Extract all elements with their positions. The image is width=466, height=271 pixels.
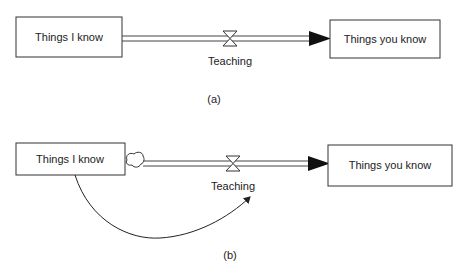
stock-label: Things you know — [349, 159, 432, 171]
stock-things-i-know-b: Things I know — [16, 143, 125, 175]
caption-b: (b) — [223, 249, 236, 261]
flow-label-teaching: Teaching — [208, 55, 252, 67]
diagram-a: Things I know Teaching Things you know (… — [16, 17, 440, 105]
diagram-b: Things I know Teaching Things you know (… — [16, 143, 452, 261]
flow-label-teaching: Teaching — [211, 180, 255, 192]
stock-things-you-know-b: Things you know — [328, 145, 452, 186]
stock-flow-diagrams: Things I know Teaching Things you know (… — [0, 0, 466, 271]
caption-a: (a) — [207, 93, 220, 105]
flow-arrowhead-icon — [308, 156, 330, 171]
stock-label: Things you know — [344, 33, 427, 45]
flow-arrowhead-icon — [309, 31, 331, 46]
flow-pipe-a — [122, 36, 312, 41]
stock-label: Things I know — [35, 31, 103, 43]
stock-label: Things I know — [36, 153, 104, 165]
valve-icon — [226, 156, 240, 171]
cloud-icon — [126, 152, 144, 167]
stock-things-i-know-a: Things I know — [16, 17, 122, 57]
stock-things-you-know-a: Things you know — [330, 20, 440, 58]
flow-pipe-b — [143, 161, 312, 166]
valve-icon — [223, 31, 237, 46]
